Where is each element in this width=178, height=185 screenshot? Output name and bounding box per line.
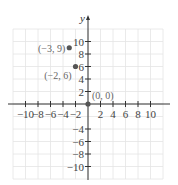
y-axis-label: y [79,12,85,24]
x-tick-label: −8 [32,108,44,120]
x-tick-label: −2 [70,108,82,120]
y-tick-label: 6 [79,61,85,73]
x-tick-label: 4 [110,108,116,120]
x-tick-label: −4 [57,108,69,120]
point-label: (−2, 6) [44,70,71,82]
y-tick-label: −10 [67,161,85,173]
axes: y [8,12,170,180]
x-tick-label: −6 [45,108,57,120]
point-label: (−3, 9) [38,43,65,55]
y-tick-label: 10 [73,36,85,48]
y-tick-label: −6 [72,136,84,148]
y-tick-label: 4 [79,73,85,85]
data-point [85,101,90,106]
x-tick-label: 6 [123,108,129,120]
point-label: (0, 0) [92,90,114,102]
x-tick-label: 10 [145,108,157,120]
data-point [67,45,72,50]
y-tick-label: 8 [79,48,85,60]
y-tick-label: 2 [79,86,85,98]
x-tick-label: 8 [135,108,141,120]
coordinate-plane-chart: y −10−8−6−4−2246810108642−4−6−8−10 (−3, … [0,0,178,185]
x-tick-label: 2 [98,108,104,120]
y-tick-label: −8 [72,148,84,160]
data-point [73,64,78,69]
y-tick-label: −4 [72,123,84,135]
y-axis-arrow-icon [86,15,90,20]
